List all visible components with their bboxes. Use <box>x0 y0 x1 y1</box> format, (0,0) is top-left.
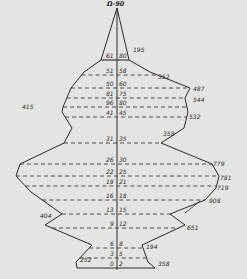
level-label-right: 80 <box>119 100 127 106</box>
level-label-right: 60 <box>119 81 127 87</box>
level-label-right: 15 <box>119 207 127 213</box>
value-label: 908 <box>209 198 220 204</box>
level-label-left: 19 <box>106 179 114 185</box>
outline-left <box>16 8 117 268</box>
level-label-left: 16 <box>106 193 114 199</box>
level-label-left: 96 <box>106 100 114 106</box>
value-label: 352 <box>158 74 169 80</box>
value-label: 544 <box>193 97 204 103</box>
level-label-left: 41 <box>106 110 114 116</box>
level-label-right: 75 <box>119 91 127 97</box>
level-label-left: 50 <box>106 81 114 87</box>
level-label-right: 45 <box>119 110 127 116</box>
level-label-right: 80 <box>119 53 127 59</box>
value-label: 194 <box>146 244 157 250</box>
value-label: 487 <box>193 86 204 92</box>
value-label: 195 <box>133 47 144 53</box>
level-label-left: 22 <box>106 169 114 175</box>
level-label-left: 3 <box>110 251 114 257</box>
level-label-right: 35 <box>119 136 127 142</box>
diagram-title: Ω-90 <box>107 1 124 7</box>
value-label: 252 <box>80 257 91 263</box>
level-label-left: 13 <box>106 207 114 213</box>
value-label: 779 <box>213 161 224 167</box>
value-label: 781 <box>220 175 231 181</box>
value-label: 415 <box>22 104 33 110</box>
level-label-right: 21 <box>119 179 127 185</box>
level-label-left: 61 <box>106 53 114 59</box>
diagram-canvas: Ω-90 61805158506081759680414531352630222… <box>0 0 247 279</box>
value-label: 404 <box>40 213 51 219</box>
value-label: 651 <box>187 225 198 231</box>
level-label-right: 30 <box>119 157 127 163</box>
level-label-right: 12 <box>119 221 127 227</box>
level-label-right: 2 <box>119 261 123 267</box>
level-label-right: 58 <box>119 68 127 74</box>
level-label-left: 51 <box>106 68 114 74</box>
value-label: 358 <box>163 131 174 137</box>
level-label-left: 81 <box>106 91 114 97</box>
value-label: 719 <box>217 185 228 191</box>
level-label-right: 5 <box>119 251 123 257</box>
level-label-left: 31 <box>106 136 114 142</box>
level-label-left: 0 <box>110 261 114 267</box>
level-label-right: 8 <box>119 241 123 247</box>
level-label-left: 26 <box>106 157 114 163</box>
level-label-left: 9 <box>110 221 114 227</box>
level-label-right: 25 <box>119 169 127 175</box>
level-label-right: 18 <box>119 193 127 199</box>
level-label-left: 6 <box>110 241 114 247</box>
value-label: 358 <box>158 261 169 267</box>
value-label: 532 <box>189 114 200 120</box>
